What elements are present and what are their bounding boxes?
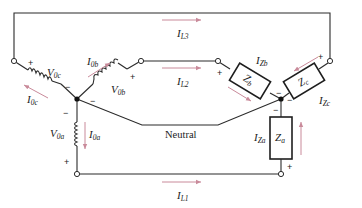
terminal-load-a <box>278 171 283 176</box>
label-il3: IL3 <box>176 27 189 41</box>
terminal-load-c <box>327 58 332 63</box>
svg-text:+: + <box>287 162 292 172</box>
label-izc: IZc <box>318 94 331 108</box>
terminal-source-c <box>11 58 16 63</box>
svg-text:+: + <box>217 68 222 78</box>
label-il2: IL2 <box>176 75 189 89</box>
terminal-load-b <box>215 58 220 63</box>
label-v0c: V0c <box>47 66 61 80</box>
source-coil-a <box>75 99 78 172</box>
svg-text:−: − <box>65 82 70 92</box>
neutral-wire <box>77 99 281 125</box>
svg-text:+: + <box>318 52 323 62</box>
svg-text:+: + <box>64 157 69 167</box>
label-iza: IZa <box>253 131 266 145</box>
svg-text:−: − <box>287 95 292 105</box>
svg-text:+: + <box>28 58 33 68</box>
svg-text:−: − <box>63 108 68 118</box>
source-coil-c <box>14 61 77 99</box>
source-neutral-node <box>74 96 79 101</box>
svg-text:+: + <box>130 72 135 82</box>
svg-text:−: − <box>276 88 281 98</box>
label-i0b: I0b <box>86 55 98 69</box>
svg-text:−: − <box>273 105 278 115</box>
svg-text:−: − <box>90 96 95 106</box>
label-i0c: I0c <box>26 93 38 107</box>
label-v0b: V0b <box>111 83 125 97</box>
terminal-source-b <box>138 58 143 63</box>
label-il1: IL1 <box>176 189 189 203</box>
circuit-diagram: IL3 IL2 IL1 V0c V0b V0a I0c I0b I0a Zb Z… <box>0 0 362 208</box>
label-izb: IZb <box>255 54 268 68</box>
label-v0a: V0a <box>50 127 64 141</box>
label-i0a: I0a <box>88 128 100 142</box>
terminal-source-a <box>74 171 79 176</box>
label-neutral: Neutral <box>165 129 197 140</box>
